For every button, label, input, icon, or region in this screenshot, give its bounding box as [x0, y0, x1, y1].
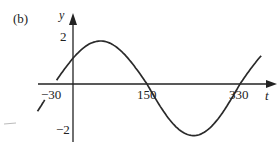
sine-graph — [0, 0, 279, 142]
y-axis-label: y — [59, 9, 64, 21]
x-axis-label: t — [265, 89, 269, 102]
stray-mark — [4, 123, 16, 124]
y-axis-arrow-icon — [69, 13, 77, 25]
x-tick-330: 330 — [229, 88, 249, 101]
y-tick-2: 2 — [60, 30, 67, 43]
x-tick-150: 150 — [137, 88, 157, 101]
y-tick-neg2: −2 — [56, 123, 70, 136]
x-tick-neg30: −30 — [41, 88, 61, 101]
x-axis-arrow-icon — [266, 80, 277, 88]
panel-label: (b) — [13, 12, 28, 25]
